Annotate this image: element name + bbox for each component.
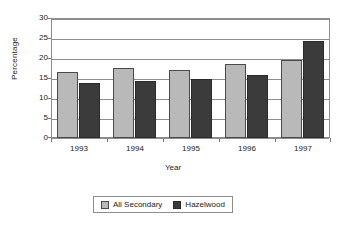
bar-all-secondary [57, 72, 78, 138]
gridline [52, 138, 329, 139]
legend-label: All Secondary [113, 200, 162, 209]
bar-group [107, 18, 163, 138]
y-tick-label: 5 [22, 113, 48, 122]
y-tick-label: 10 [22, 93, 48, 102]
x-tick-mark [107, 138, 108, 142]
bar-hazelwood [135, 81, 156, 138]
x-tick-mark [51, 138, 52, 142]
bar-hazelwood [191, 79, 212, 138]
legend-item-all-secondary: All Secondary [101, 200, 162, 209]
legend-label: Hazelwood [185, 200, 225, 209]
x-tick-label: 1997 [275, 144, 331, 153]
x-tick-mark [330, 138, 331, 142]
x-tick-mark [275, 138, 276, 142]
y-tick-label: 25 [22, 33, 48, 42]
chart-legend: All Secondary Hazelwood [93, 196, 233, 213]
x-tick-mark [219, 138, 220, 142]
bar-all-secondary [169, 70, 190, 138]
bar-group [219, 18, 275, 138]
x-axis-title: Year [0, 163, 346, 172]
legend-swatch-icon [101, 201, 109, 209]
x-tick-label: 1994 [107, 144, 163, 153]
bar-all-secondary [113, 68, 134, 138]
bar-chart: Percentage 30 25 20 15 10 5 0 [0, 0, 346, 234]
bar-hazelwood [247, 75, 268, 138]
bar-all-secondary [281, 60, 302, 138]
bar-hazelwood [303, 41, 324, 138]
y-tick-label: 30 [22, 13, 48, 22]
x-tick-label: 1996 [219, 144, 275, 153]
bar-group [275, 18, 331, 138]
y-tick-label: 20 [22, 53, 48, 62]
y-axis-title: Percentage [10, 24, 19, 94]
y-tick-label: 15 [22, 73, 48, 82]
x-tick-mark [163, 138, 164, 142]
y-tick-label: 0 [22, 133, 48, 142]
bar-all-secondary [225, 64, 246, 138]
legend-swatch-icon [173, 201, 181, 209]
legend-item-hazelwood: Hazelwood [173, 200, 225, 209]
x-tick-label: 1995 [163, 144, 219, 153]
x-tick-label: 1993 [51, 144, 107, 153]
bars-layer [51, 18, 330, 138]
bar-hazelwood [79, 83, 100, 138]
bar-group [51, 18, 107, 138]
bar-group [163, 18, 219, 138]
